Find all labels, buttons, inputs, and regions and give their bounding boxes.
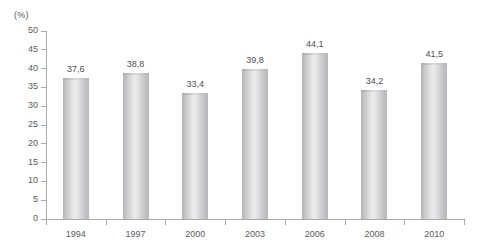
y-axis-tick-label: 15 [16,157,38,167]
bar [242,69,268,219]
bar-value-label: 39,8 [233,55,277,65]
y-axis-tick-label: 45 [16,44,38,54]
y-axis-tick-label: 25 [16,119,38,129]
bar-top-cap [182,93,208,95]
bar-value-label: 33,4 [173,79,217,89]
x-axis-tick [404,220,405,225]
bar-top-cap [123,73,149,75]
bar [182,93,208,219]
y-axis-tick-label: 30 [16,100,38,110]
y-axis-tick-label: 50 [16,25,38,35]
bar-value-label: 37,6 [54,64,98,74]
bar-value-label: 38,8 [114,59,158,69]
bar [421,63,447,219]
x-axis-tick [345,220,346,225]
x-axis-line [46,219,465,220]
bar-value-label: 34,2 [352,76,396,86]
y-axis-tick-label: 35 [16,81,38,91]
bar [63,78,89,219]
bar-top-cap [421,63,447,65]
bar [123,73,149,219]
x-axis-tick [46,220,47,225]
x-axis-category-label: 2003 [229,229,281,239]
x-axis-category-label: 2010 [408,229,460,239]
bar-value-label: 44,1 [293,39,337,49]
x-axis-category-label: 2006 [289,229,341,239]
x-axis-tick [225,220,226,225]
bar-top-cap [63,78,89,80]
y-axis-tick-label: 10 [16,175,38,185]
y-axis-tick-label: 5 [16,194,38,204]
bar-top-cap [361,90,387,92]
x-axis-tick [464,220,465,225]
y-axis-unit-label: (%) [14,10,29,20]
bar-top-cap [302,53,328,55]
x-axis-category-label: 2000 [169,229,221,239]
bar-chart: (%) 05101520253035404550 199419972000200… [0,0,496,252]
x-axis-tick [165,220,166,225]
y-axis-tick-label: 40 [16,63,38,73]
x-axis-tick [106,220,107,225]
x-axis-category-label: 1997 [110,229,162,239]
y-axis-tick-label: 20 [16,138,38,148]
bar-value-label: 41,5 [412,49,456,59]
bar-top-cap [242,69,268,71]
y-axis-tick-label: 0 [16,213,38,223]
x-axis-category-label: 1994 [50,229,102,239]
x-axis-tick [285,220,286,225]
x-axis-category-label: 2008 [348,229,400,239]
bar [302,53,328,219]
bar [361,90,387,219]
